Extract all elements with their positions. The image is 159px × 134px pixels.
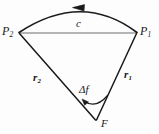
label-r2: r2 — [33, 72, 41, 84]
label-r2-subscript: 2 — [37, 77, 41, 84]
label-focus: F — [101, 118, 108, 129]
label-p1: P1 — [140, 25, 151, 38]
label-p2: P2 — [2, 25, 13, 38]
label-delta-f: Δf — [79, 84, 89, 95]
orbit-arc-arrowhead — [73, 5, 85, 11]
radius-r2-line — [20, 34, 96, 121]
delta-f-arrowhead — [82, 99, 89, 105]
label-p1-subscript: 1 — [147, 30, 151, 39]
label-r1-subscript: 1 — [128, 74, 132, 81]
label-chord: c — [76, 18, 81, 29]
label-p2-subscript: 2 — [9, 30, 13, 39]
orbit-geometry-figure: P2 P1 c r1 r2 Δf F — [0, 0, 159, 134]
label-r1: r1 — [124, 69, 132, 81]
